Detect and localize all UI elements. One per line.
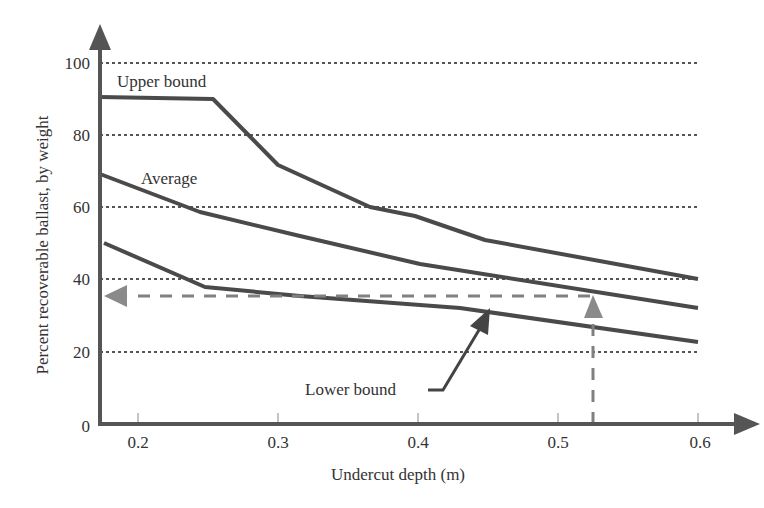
y-tick-40: 40 bbox=[73, 270, 90, 289]
y-tick-20: 20 bbox=[73, 343, 90, 362]
series-upper-bound bbox=[100, 97, 698, 279]
x-axis-title: Undercut depth (m) bbox=[331, 465, 465, 484]
y-tick-60: 60 bbox=[73, 198, 90, 217]
x-axis-arrow-icon bbox=[734, 413, 760, 435]
label-lower-bound: Lower bound bbox=[305, 380, 397, 399]
x-tick-0.2: 0.2 bbox=[127, 433, 148, 452]
x-tick-0.3: 0.3 bbox=[267, 433, 288, 452]
lower-bound-pointer bbox=[428, 325, 482, 390]
x-tick-0.5: 0.5 bbox=[547, 433, 568, 452]
arrow-left-icon bbox=[104, 285, 127, 307]
y-tick-100: 100 bbox=[65, 54, 91, 73]
series-lines bbox=[100, 97, 698, 342]
y-axis-title: Percent recoverable ballast, by weight bbox=[33, 115, 52, 374]
y-tick-80: 80 bbox=[73, 126, 90, 145]
chart: 100 80 60 40 20 0 0.2 0.3 0.4 0.5 0.6 Un… bbox=[0, 0, 764, 508]
y-tick-0: 0 bbox=[82, 417, 91, 436]
x-tick-0.6: 0.6 bbox=[689, 433, 710, 452]
x-tick-0.4: 0.4 bbox=[407, 433, 429, 452]
label-upper-bound: Upper bound bbox=[117, 72, 207, 91]
series-average bbox=[100, 174, 698, 308]
y-axis-arrow-icon bbox=[89, 24, 111, 50]
arrow-up-icon bbox=[584, 295, 603, 318]
label-average: Average bbox=[141, 169, 197, 188]
